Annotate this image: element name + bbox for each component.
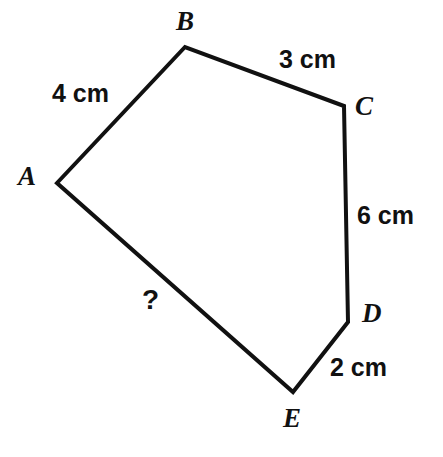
vertex-label-c: C — [355, 93, 373, 120]
vertex-label-a: A — [18, 163, 36, 190]
side-label-ab: 4 cm — [52, 81, 109, 106]
vertex-label-d: D — [362, 300, 382, 327]
side-label-cd: 6 cm — [357, 203, 414, 228]
side-label-ea-unknown: ? — [142, 286, 159, 314]
side-label-de: 2 cm — [330, 355, 387, 380]
vertex-label-e: E — [283, 405, 301, 432]
vertex-label-b: B — [176, 8, 194, 35]
side-label-bc: 3 cm — [279, 47, 336, 72]
geometry-diagram-canvas: A B C D E 4 cm 3 cm 6 cm 2 cm ? — [0, 0, 443, 457]
